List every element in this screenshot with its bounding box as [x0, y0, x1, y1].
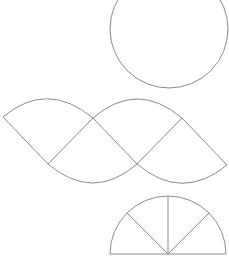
circle-shape — [110, 0, 228, 88]
arc-bottom-right — [137, 164, 227, 183]
diagram-canvas — [0, 0, 229, 278]
radius-left — [127, 213, 168, 254]
semicircle-sectors — [110, 196, 226, 254]
radius-right — [168, 213, 209, 254]
arc-top-left — [3, 99, 93, 118]
edge-diag-1 — [48, 118, 93, 164]
arc-bottom-left — [48, 164, 137, 183]
sector-net — [3, 99, 227, 184]
arc-top-right — [93, 99, 182, 118]
edge-left-outer — [3, 117, 48, 164]
edge-diag-3 — [137, 118, 182, 164]
edge-diag-2 — [93, 118, 137, 164]
edge-right-outer — [182, 118, 227, 165]
